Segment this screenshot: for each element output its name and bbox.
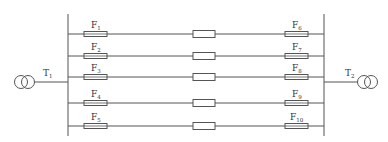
right-fuse-icon [285, 124, 308, 129]
feeder-row: F3F8 [68, 63, 324, 81]
single-line-diagram: F1F6F2F7F3F8F4F9F5F10 T1 T2 [0, 0, 388, 142]
left-fuse-label: F3 [91, 63, 101, 74]
right-fuse-label: F8 [292, 63, 302, 74]
line-impedance-icon [193, 31, 215, 38]
left-fuse-label: F4 [91, 89, 101, 100]
right-fuse-icon [285, 101, 308, 106]
right-fuse-label: F9 [292, 89, 302, 100]
right-fuse-label: F7 [292, 42, 302, 53]
right-fuse-label: F6 [292, 20, 302, 31]
line-impedance-icon [193, 123, 215, 130]
feeder-row: F4F9 [68, 89, 324, 107]
transformer-t2-icon [358, 76, 378, 89]
left-fuse-label: F1 [91, 20, 101, 31]
t1-label: T1 [43, 68, 53, 79]
feeder-row: F1F6 [68, 20, 324, 38]
left-fuse-icon [84, 32, 107, 37]
line-impedance-icon [193, 100, 215, 107]
right-fuse-label: F10 [290, 112, 304, 123]
left-fuse-icon [84, 124, 107, 129]
right-fuse-icon [285, 32, 308, 37]
feeder-row: F5F10 [68, 112, 324, 130]
left-fuse-icon [84, 75, 107, 80]
left-fuse-label: F5 [91, 112, 101, 123]
left-fuse-icon [84, 54, 107, 59]
feeder-row: F2F7 [68, 42, 324, 60]
right-fuse-icon [285, 75, 308, 80]
left-fuse-label: F2 [91, 42, 101, 53]
right-fuse-icon [285, 54, 308, 59]
line-impedance-icon [193, 53, 215, 60]
t2-label: T2 [345, 68, 355, 79]
transformer-t1-icon [15, 76, 35, 89]
line-impedance-icon [193, 74, 215, 81]
left-fuse-icon [84, 101, 107, 106]
